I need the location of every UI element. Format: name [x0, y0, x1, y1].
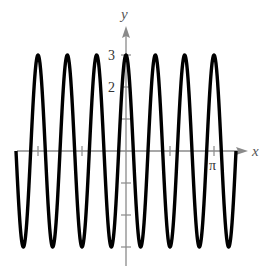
x-tick-label-pi: π: [209, 158, 216, 173]
y-axis-label: y: [119, 6, 128, 22]
cosine-graph: x y 3 2 π: [0, 0, 267, 272]
x-axis-label: x: [251, 143, 259, 159]
y-tick-label-3: 3: [108, 48, 115, 63]
y-tick-label-2: 2: [108, 80, 115, 95]
